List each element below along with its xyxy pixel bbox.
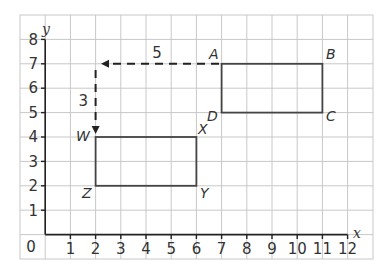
- svg-text:2: 2: [28, 177, 38, 195]
- point-label-x: X: [197, 121, 208, 137]
- svg-text:7: 7: [217, 240, 227, 258]
- y-axis-label: y: [41, 21, 51, 37]
- point-label-b: B: [326, 46, 336, 62]
- svg-text:2: 2: [91, 240, 101, 258]
- svg-text:10: 10: [288, 240, 307, 258]
- svg-text:8: 8: [242, 240, 252, 258]
- point-label-y: Y: [200, 185, 210, 201]
- svg-text:3: 3: [116, 240, 126, 258]
- point-label-a: A: [208, 46, 219, 62]
- svg-text:1: 1: [28, 202, 38, 220]
- svg-text:6: 6: [28, 79, 38, 97]
- x-axis-label: x: [353, 225, 361, 241]
- arrow-horizontal-label: 5: [152, 44, 162, 62]
- y-tick-labels: 1 2 3 4 5 6 7 8: [28, 31, 38, 220]
- x-tick-labels: 1 2 3 4 5 6 7 8 9 10 11 12: [66, 240, 358, 258]
- point-label-c: C: [326, 108, 336, 124]
- svg-text:4: 4: [141, 240, 151, 258]
- arrow-vertical-label: 3: [78, 92, 88, 110]
- coordinate-grid-diagram: 1 2 3 4 5 6 7 8 9 10 11 12 1 2 3 4 5 6 7…: [0, 0, 391, 273]
- svg-text:11: 11: [313, 240, 332, 258]
- point-label-z: Z: [81, 185, 92, 201]
- svg-text:6: 6: [192, 240, 202, 258]
- svg-text:5: 5: [28, 104, 38, 122]
- point-label-d: D: [207, 108, 218, 124]
- svg-text:3: 3: [28, 153, 38, 171]
- origin-label: 0: [26, 238, 36, 256]
- svg-text:7: 7: [28, 55, 38, 73]
- point-label-w: W: [76, 128, 91, 144]
- svg-text:8: 8: [28, 31, 38, 49]
- svg-text:9: 9: [267, 240, 277, 258]
- svg-text:4: 4: [28, 128, 38, 146]
- svg-text:5: 5: [166, 240, 176, 258]
- svg-text:12: 12: [338, 240, 357, 258]
- svg-text:1: 1: [66, 240, 76, 258]
